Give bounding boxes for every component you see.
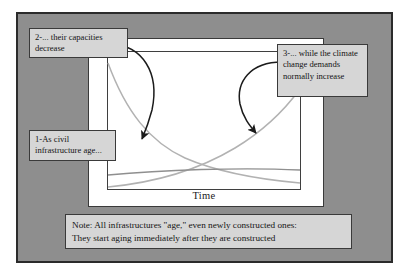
plot-frame bbox=[107, 51, 301, 190]
callout-climate-demands-increase: 3-... while the climate change demands n… bbox=[277, 44, 368, 97]
x-axis-label: Time bbox=[107, 190, 301, 201]
diagram-canvas: Time 2-... their capacities decrease 3-.… bbox=[0, 0, 409, 275]
note-line-1: Note: All infrastructures "age," even ne… bbox=[72, 219, 345, 232]
note-line-2: They start aging immediately after they … bbox=[72, 232, 345, 245]
callout-infrastructure-age: 1-As civil infrastructure age... bbox=[29, 130, 116, 161]
callout-capacities-decrease: 2-... their capacities decrease bbox=[29, 28, 128, 58]
note-box: Note: All infrastructures "age," even ne… bbox=[65, 214, 352, 249]
